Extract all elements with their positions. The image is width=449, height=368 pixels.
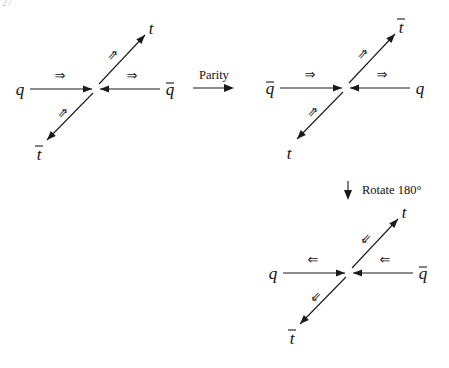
outgoing-up-line	[349, 34, 395, 83]
vertex-diagram-original: q⇒q⇒t⇒t⇒	[16, 19, 175, 164]
outgoing-up-label: t	[402, 203, 408, 222]
incoming-right-spin-icon: ⇒	[377, 67, 388, 82]
incoming-right-spin-icon: ⇐	[380, 252, 391, 267]
incoming-left-label: q	[16, 80, 25, 99]
rotate-transform: Rotate 180°	[344, 181, 422, 200]
parity-transform: Parity	[193, 68, 234, 92]
outgoing-down-line	[297, 92, 343, 139]
vertex-diagram-parity: q⇒q⇒t⇒t⇒	[266, 18, 425, 163]
incoming-right-arrowhead-icon	[350, 85, 359, 92]
outgoing-down-label: t	[37, 145, 43, 164]
incoming-left-spin-icon: ⇒	[55, 68, 66, 83]
incoming-left-arrowhead-icon	[333, 85, 342, 92]
outgoing-down-spin-icon: ⇒	[53, 104, 72, 122]
outgoing-up-label: t	[399, 18, 405, 37]
outgoing-down-spin-icon: ⇒	[303, 103, 322, 121]
outgoing-up-line	[352, 219, 398, 268]
outgoing-down-spin-icon: ⇐	[306, 288, 325, 306]
outgoing-up-spin-icon: ⇐	[356, 230, 375, 248]
outgoing-up-label: t	[149, 19, 155, 38]
outgoing-down-label: t	[290, 329, 296, 348]
incoming-right-arrowhead-icon	[353, 270, 362, 277]
rotate-arrow-icon	[344, 190, 352, 200]
outgoing-up-spin-icon: ⇒	[103, 46, 122, 64]
incoming-left-arrowhead-icon	[336, 270, 345, 277]
rotate-label: Rotate 180°	[362, 183, 422, 197]
incoming-left-arrowhead-icon	[83, 86, 92, 93]
helicity-parity-diagram: 27 Parity Rotate 180° q⇒q⇒t⇒t⇒q⇒q⇒t⇒t⇒q⇐…	[0, 0, 449, 368]
vertex-diagram-rotated: q⇐q⇐t⇐t⇐	[269, 203, 428, 348]
incoming-left-spin-icon: ⇐	[308, 252, 319, 267]
incoming-right-arrowhead-icon	[100, 86, 109, 93]
page-number-fragment: 27	[2, 0, 12, 8]
outgoing-up-line	[99, 35, 145, 84]
outgoing-down-line	[300, 277, 346, 324]
parity-arrow-icon	[224, 84, 234, 92]
incoming-left-label: q	[269, 264, 278, 283]
incoming-right-label: q	[416, 79, 425, 98]
parity-label: Parity	[199, 68, 230, 82]
outgoing-down-label: t	[287, 144, 293, 163]
outgoing-up-spin-icon: ⇒	[353, 45, 372, 63]
incoming-left-spin-icon: ⇒	[305, 67, 316, 82]
outgoing-down-line	[47, 93, 93, 140]
incoming-right-spin-icon: ⇒	[127, 68, 138, 83]
